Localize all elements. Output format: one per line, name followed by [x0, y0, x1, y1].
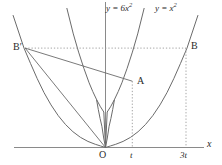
curve-label-inner-text: y = 6x: [106, 3, 129, 13]
curve-label-outer: y = x2: [155, 2, 177, 13]
curve-label-outer-text: y = x: [155, 3, 174, 13]
figure-canvas: [0, 0, 222, 165]
curve-label-inner-exponent: 2: [129, 1, 132, 8]
point-label-B: B: [191, 41, 198, 51]
x-axis-label: x: [207, 139, 211, 149]
point-label-B-prime: B′: [13, 42, 22, 52]
geometry-figure: y = 6x2 y = x2 B′ B A O t 3t x: [0, 0, 222, 165]
x-tick-label-t: t: [130, 151, 133, 160]
x-tick-label-3t: 3t: [180, 151, 187, 160]
segment-Bprime-O: [25, 48, 105, 147]
curve-label-outer-exponent: 2: [174, 1, 177, 8]
curve-label-inner: y = 6x2: [106, 2, 132, 13]
point-label-origin: O: [99, 150, 106, 160]
point-label-A: A: [137, 76, 144, 86]
